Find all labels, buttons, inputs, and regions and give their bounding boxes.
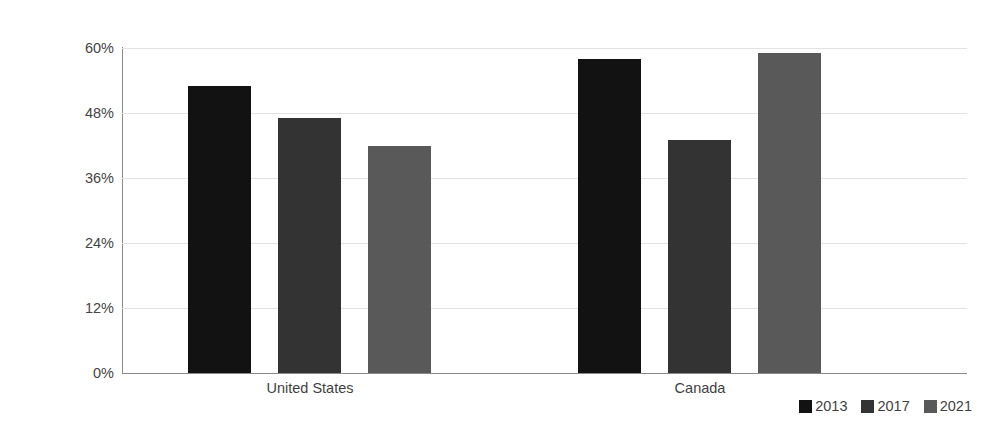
y-tick-label-0: 0% [14, 365, 114, 381]
gridline-60 [122, 48, 967, 49]
bar-united-states-2021[interactable] [368, 146, 431, 374]
legend-label-2013: 2013 [815, 398, 847, 414]
x-category-label-united-states: United States [266, 380, 353, 396]
bar-united-states-2013[interactable] [188, 86, 251, 373]
bar-canada-2017[interactable] [668, 140, 731, 373]
plot-area [122, 48, 967, 373]
legend-label-2021: 2021 [940, 398, 972, 414]
y-tick-label-12: 12% [14, 300, 114, 316]
legend-swatch-icon-2017 [861, 400, 874, 413]
chart-legend: 2013 2017 2021 [799, 398, 972, 414]
y-tick-label-24: 24% [14, 235, 114, 251]
legend-swatch-icon-2013 [799, 400, 812, 413]
y-tick-label-60: 60% [14, 40, 114, 56]
legend-swatch-icon-2021 [924, 400, 937, 413]
y-tick-label-36: 36% [14, 170, 114, 186]
bar-united-states-2017[interactable] [278, 118, 341, 373]
x-axis-line [122, 373, 967, 374]
x-category-label-canada: Canada [675, 380, 726, 396]
legend-label-2017: 2017 [877, 398, 909, 414]
y-tick-label-48: 48% [14, 105, 114, 121]
bar-canada-2013[interactable] [578, 59, 641, 373]
bar-canada-2021[interactable] [758, 53, 821, 373]
legend-item-2021[interactable]: 2021 [924, 398, 972, 414]
y-axis-tick-labels: 60% 48% 36% 24% 12% 0% [8, 48, 114, 373]
legend-item-2013[interactable]: 2013 [799, 398, 847, 414]
legend-item-2017[interactable]: 2017 [861, 398, 909, 414]
bar-chart: Percentage of general population 60% 48%… [0, 0, 982, 430]
